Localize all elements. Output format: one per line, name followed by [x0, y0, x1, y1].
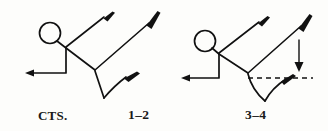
diagram-background [0, 0, 328, 131]
movement-notation-diagram [0, 0, 328, 131]
